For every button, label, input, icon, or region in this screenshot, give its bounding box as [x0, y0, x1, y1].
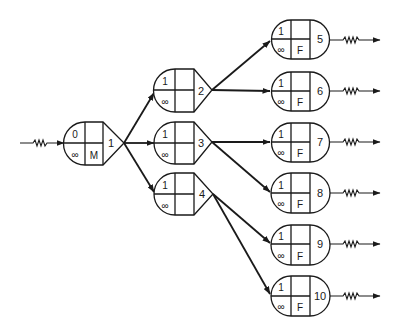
node-9-top: 1	[278, 231, 284, 242]
node-10-type: F	[297, 302, 303, 313]
node-3-capacity: ∞	[161, 149, 168, 160]
node-8-type: F	[297, 199, 303, 210]
node-4-id: 4	[199, 188, 205, 200]
node-7-type: F	[297, 148, 303, 159]
node-9-id: 9	[317, 238, 323, 250]
node-9: 1 ∞ F 9	[271, 225, 380, 265]
edge-1-4	[124, 143, 154, 192]
node-8-id: 8	[317, 187, 323, 199]
node-9-capacity: ∞	[277, 250, 284, 261]
node-4-capacity: ∞	[161, 200, 168, 211]
node-5-capacity: ∞	[277, 44, 284, 55]
node-7-capacity: ∞	[277, 147, 284, 158]
node-1-capacity: ∞	[71, 149, 78, 160]
node-7: 1 ∞ F 7	[271, 123, 380, 162]
node-8: 1 ∞ F 8	[271, 173, 380, 213]
edge-4-9	[213, 194, 270, 243]
node-8-top: 1	[278, 180, 284, 191]
node-5-top: 1	[278, 26, 284, 37]
node-7-top: 1	[278, 129, 284, 140]
edge-2-5	[212, 41, 270, 90]
node-10-capacity: ∞	[277, 301, 284, 312]
node-2: 1 ∞ 2	[154, 69, 213, 112]
node-5: 1 ∞ F 5	[271, 20, 380, 59]
edge-4-10	[213, 194, 270, 294]
node-4: 1 ∞ 4	[154, 173, 213, 215]
node-1: 0 ∞ M 1	[64, 122, 125, 165]
edge-1-2	[124, 93, 154, 143]
node-8-capacity: ∞	[277, 198, 284, 209]
node-3-top: 1	[162, 129, 168, 140]
node-10-id: 10	[314, 290, 326, 302]
node-2-id: 2	[198, 85, 204, 97]
node-2-top: 1	[162, 76, 168, 87]
node-1-top: 0	[72, 129, 78, 140]
node-5-type: F	[297, 45, 303, 56]
node-1-type: M	[90, 150, 98, 161]
edge-3-8	[212, 142, 270, 192]
node-9-type: F	[297, 251, 303, 262]
node-3-id: 3	[198, 137, 204, 149]
input-arrow	[20, 140, 64, 146]
node-3: 1 ∞ 3	[154, 122, 212, 164]
node-6: 1 ∞ F 6	[271, 72, 380, 111]
node-7-id: 7	[317, 136, 323, 148]
network-diagram: 0 ∞ M 1 1 ∞ 2 1 ∞ 3 1 ∞ 4	[0, 0, 399, 330]
node-6-top: 1	[278, 78, 284, 89]
node-4-top: 1	[162, 180, 168, 191]
node-6-capacity: ∞	[277, 96, 284, 107]
node-5-id: 5	[317, 33, 323, 45]
node-10-top: 1	[278, 282, 284, 293]
node-10: 1 ∞ F 10	[271, 276, 380, 316]
node-6-type: F	[297, 97, 303, 108]
node-2-capacity: ∞	[161, 96, 168, 107]
node-6-id: 6	[317, 85, 323, 97]
edge-2-6	[212, 90, 270, 91]
node-1-id: 1	[108, 137, 114, 149]
